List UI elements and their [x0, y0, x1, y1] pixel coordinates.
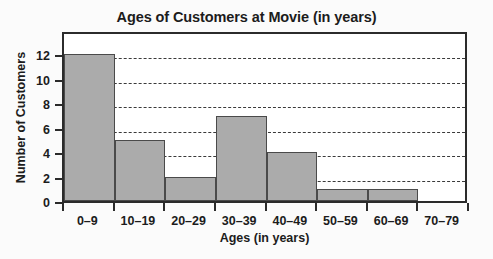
- x-tick-mark-1: [113, 203, 115, 211]
- bar-60–69: [368, 189, 419, 201]
- x-axis-label: Ages (in years): [62, 231, 467, 245]
- y-tick-label-6: 6: [43, 123, 50, 137]
- x-tick-label-30–39: 30–39: [222, 214, 257, 228]
- x-tick-mark-3: [214, 203, 216, 211]
- x-tick-label-50–59: 50–59: [323, 214, 358, 228]
- y-tick-mark-12: [55, 55, 62, 57]
- bar-0–9: [64, 54, 115, 201]
- x-tick-label-60–69: 60–69: [374, 214, 409, 228]
- x-tick-label-40–49: 40–49: [272, 214, 307, 228]
- bar-30–39: [216, 116, 267, 202]
- y-tick-label-4: 4: [43, 147, 50, 161]
- y-tick-mark-4: [55, 153, 62, 155]
- x-tick-label-0–9: 0–9: [77, 214, 98, 228]
- y-tick-mark-2: [55, 178, 62, 180]
- y-tick-mark-8: [55, 104, 62, 106]
- y-tick-label-0: 0: [43, 196, 50, 210]
- gridline-y-8: [64, 107, 465, 108]
- x-axis-ticks: 0–910–1920–2930–3940–4950–5960–6970–79: [62, 203, 467, 233]
- x-tick-mark-7: [416, 203, 418, 211]
- histogram-figure: Ages of Customers at Movie (in years) Nu…: [0, 0, 493, 259]
- x-tick-mark-2: [163, 203, 165, 211]
- y-axis-ticks: 024681012: [0, 32, 62, 203]
- y-tick-mark-6: [55, 129, 62, 131]
- x-tick-label-10–19: 10–19: [121, 214, 156, 228]
- gridline-y-10: [64, 83, 465, 84]
- bar-50–59: [317, 189, 368, 201]
- plot-area: [62, 32, 467, 203]
- chart-title: Ages of Customers at Movie (in years): [0, 9, 493, 25]
- x-tick-mark-0: [62, 203, 64, 211]
- y-tick-label-8: 8: [43, 98, 50, 112]
- gridline-y-12: [64, 58, 465, 59]
- x-tick-mark-8: [467, 203, 469, 211]
- y-tick-mark-10: [55, 80, 62, 82]
- y-tick-label-10: 10: [36, 74, 50, 88]
- x-tick-mark-4: [265, 203, 267, 211]
- x-tick-mark-6: [366, 203, 368, 211]
- y-tick-mark-0: [55, 202, 62, 204]
- y-tick-label-2: 2: [43, 172, 50, 186]
- plot-inner: [64, 34, 465, 201]
- x-tick-mark-5: [315, 203, 317, 211]
- x-tick-label-20–29: 20–29: [171, 214, 206, 228]
- y-tick-label-12: 12: [36, 49, 50, 63]
- x-tick-label-70–79: 70–79: [424, 214, 459, 228]
- bar-40–49: [267, 152, 318, 201]
- bar-20–29: [165, 177, 216, 201]
- bar-10–19: [115, 140, 166, 201]
